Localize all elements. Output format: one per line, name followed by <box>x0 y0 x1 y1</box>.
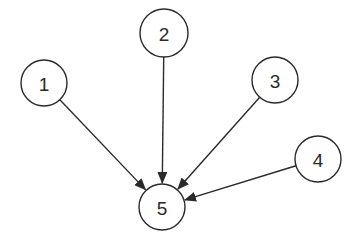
directed-graph-canvas: 12345 <box>0 0 364 245</box>
node-label: 2 <box>159 24 170 45</box>
edge-3-to-5 <box>178 97 260 189</box>
edge-2-to-5 <box>162 57 163 183</box>
node-label: 4 <box>313 150 324 171</box>
node-label: 3 <box>270 71 281 92</box>
node-4: 4 <box>295 136 341 182</box>
nodes-group: 12345 <box>21 9 341 230</box>
edge-1-to-5 <box>60 100 146 190</box>
node-1: 1 <box>21 60 67 106</box>
node-label: 1 <box>39 74 50 95</box>
node-5: 5 <box>139 184 185 230</box>
node-3: 3 <box>252 57 298 103</box>
node-2: 2 <box>140 9 188 57</box>
edge-4-to-5 <box>185 166 296 200</box>
node-label: 5 <box>157 198 168 219</box>
